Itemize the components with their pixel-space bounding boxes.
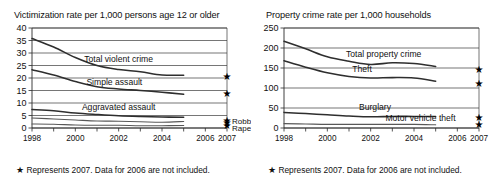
- series-label: Simple assault: [86, 77, 142, 87]
- y-axis-tick-label: 10: [16, 98, 26, 108]
- y-axis-tick-label: 30: [16, 48, 26, 58]
- star-icon: ★: [268, 165, 276, 175]
- x-axis-tick-label: 2007: [470, 134, 489, 143]
- series-label: Rape: [232, 124, 251, 133]
- y-axis-tick-label: 50: [268, 103, 278, 113]
- series-line: [284, 124, 436, 125]
- x-axis-tick-label: 2002: [110, 134, 129, 143]
- chart-title-left: Victimization rate per 1,000 persons age…: [14, 10, 220, 20]
- plot-area-left: 0510152025303540199820002002200420062007…: [0, 22, 251, 147]
- series-label: Theft: [352, 64, 372, 74]
- data-marker-2007-star: ★: [475, 78, 484, 89]
- y-axis-tick-label: 150: [263, 63, 278, 73]
- series-line: [32, 124, 184, 126]
- y-axis-tick-label: 15: [16, 86, 26, 96]
- y-axis-tick-label: 250: [263, 23, 278, 33]
- y-axis-tick-label: 25: [16, 61, 26, 71]
- data-marker-2007-star: ★: [223, 88, 232, 99]
- chart-panel-victimization: Victimization rate per 1,000 persons age…: [0, 0, 251, 187]
- footnote-text-left: Represents 2007. Data for 2006 are not i…: [26, 165, 209, 175]
- figure-sheet: Victimization rate per 1,000 persons age…: [0, 0, 503, 187]
- series-line: [32, 118, 184, 122]
- x-axis-tick-label: 1998: [275, 134, 294, 143]
- x-axis-tick-label: 2007: [218, 134, 237, 143]
- chart-panel-property: Property crime rate per 1,000 households…: [252, 0, 503, 187]
- x-axis-tick-label: 2000: [66, 134, 85, 143]
- data-marker-2007-star: ★: [475, 64, 484, 75]
- series-label: Burglary: [359, 102, 392, 112]
- x-axis-tick-label: 2004: [153, 134, 172, 143]
- series-label: Total violent crime: [84, 54, 153, 64]
- y-axis-tick-label: 0: [21, 123, 26, 133]
- series-label: Aggravated assault: [82, 102, 156, 112]
- y-axis-tick-label: 100: [263, 83, 278, 93]
- y-axis-tick-label: 20: [16, 73, 26, 83]
- y-axis-tick-label: 40: [16, 23, 26, 33]
- x-axis-tick-label: 2000: [318, 134, 337, 143]
- series-label: Motor vehicle theft: [385, 113, 456, 123]
- footnote-text-right: Represents 2007. Data for 2006 are not i…: [278, 165, 461, 175]
- data-marker-2007-star: ★: [223, 120, 232, 131]
- y-axis-tick-label: 35: [16, 36, 26, 46]
- data-marker-2007-star: ★: [475, 119, 484, 130]
- y-axis-tick-label: 0: [273, 123, 278, 133]
- chart-svg-right: 050100150200250199820002002200420062007★…: [252, 22, 503, 147]
- x-axis-tick-label: 2004: [405, 134, 424, 143]
- x-axis-tick-label: 2002: [362, 134, 381, 143]
- x-axis-tick-label: 2006: [448, 134, 467, 143]
- y-axis-tick-label: 200: [263, 43, 278, 53]
- chart-title-right: Property crime rate per 1,000 households: [266, 10, 431, 20]
- y-axis-tick-label: 5: [21, 111, 26, 121]
- chart-svg-left: 0510152025303540199820002002200420062007…: [0, 22, 251, 147]
- footnote-left: ★ Represents 2007. Data for 2006 are not…: [16, 165, 210, 175]
- footnote-right: ★ Represents 2007. Data for 2006 are not…: [268, 165, 462, 175]
- plot-area-right: 050100150200250199820002002200420062007★…: [252, 22, 503, 147]
- x-axis-tick-label: 2006: [196, 134, 215, 143]
- series-label: Total property crime: [346, 49, 422, 59]
- x-axis-tick-label: 1998: [23, 134, 42, 143]
- star-icon: ★: [16, 165, 24, 175]
- data-marker-2007-star: ★: [223, 71, 232, 82]
